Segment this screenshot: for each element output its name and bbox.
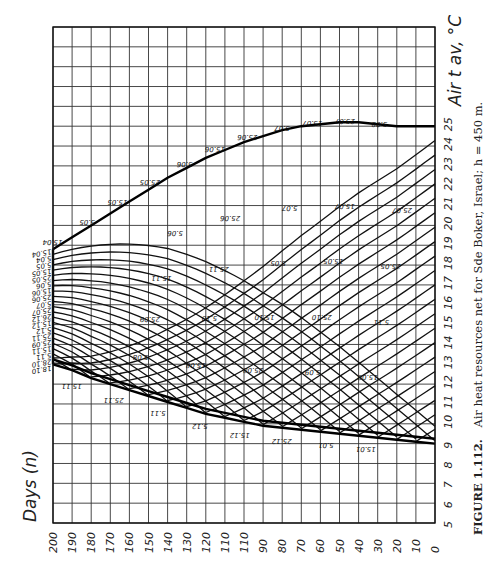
x-tick-label: 120 <box>200 532 213 553</box>
y-tick-label: 15 <box>442 316 455 330</box>
y-tick-label: 6 <box>442 501 455 508</box>
y-tick-label: 10 <box>442 415 455 429</box>
curve-label-interior: 15.11 <box>151 274 171 282</box>
y-tick-label: 19 <box>442 236 455 250</box>
curve-label-lower: 25.11 <box>104 396 124 404</box>
x-tick-label: 0 <box>429 546 442 553</box>
curve-label-upper: 15.05 <box>107 198 128 206</box>
y-tick-label: 11 <box>442 395 455 409</box>
y-tick-label: 14 <box>442 335 455 349</box>
x-tick-label: 10 <box>410 539 423 553</box>
curve-label-interior: 25.08 <box>243 366 264 374</box>
curve-label-interior: 25.07 <box>391 206 412 214</box>
caption-text: Air heat resources net for Sde Boker, Is… <box>471 102 485 429</box>
y-tick-label: 8 <box>442 461 455 468</box>
curve-label-upper: 25.06 <box>237 133 258 141</box>
x-tick-label: 130 <box>181 532 194 553</box>
curve-label-upper: 5.06 <box>176 160 192 168</box>
curve-label-lower: 15.01 <box>356 445 376 453</box>
y-tick-label: 25 <box>442 117 455 131</box>
x-tick-label: 200 <box>47 532 60 553</box>
y-tick-label: 21 <box>442 197 455 211</box>
y-tick-label: 13 <box>442 355 455 369</box>
x-tick-label: 170 <box>104 532 117 553</box>
x-tick-label: 30 <box>372 539 385 553</box>
curve-label-interior: 5.05 <box>270 259 286 267</box>
y-tick-label: 20 <box>442 216 455 230</box>
curve-label-interior: 5.08 <box>132 353 148 361</box>
y-tick-label: 7 <box>442 481 455 488</box>
y-tick-label: 16 <box>442 296 455 310</box>
curve-label-interior: 15.09 <box>357 373 378 381</box>
y-tick-label: 12 <box>442 375 455 389</box>
x-tick-labels: 2001901801701601501401301201101109080706… <box>47 532 442 553</box>
curve-label-interior: 15.07 <box>334 202 355 210</box>
curve-label-lower: 5.01 <box>318 441 334 449</box>
curve-label-upper: 15.07 <box>302 119 323 127</box>
x-tick-label: 140 <box>162 532 175 553</box>
x-tick-label: 90 <box>257 539 270 553</box>
y-tick-label: 9 <box>442 442 455 449</box>
x-tick-label: 80 <box>276 539 289 553</box>
curve-label-upper: 15.06 <box>204 145 225 153</box>
curve-label-interior: 5.07 <box>281 204 297 212</box>
curve-label-lower: 5.12 <box>192 422 208 430</box>
curve-label-interior: 25.05 <box>380 262 401 270</box>
x-tick-label: 150 <box>143 532 156 553</box>
curve-label-upper: 25.07 <box>334 117 355 125</box>
x-tick-label: 190 <box>66 532 79 553</box>
x-tick-label: 180 <box>85 532 98 553</box>
y-tick-label: 22 <box>442 177 455 191</box>
y-tick-label: 18 <box>442 256 455 270</box>
x-tick-label: 20 <box>391 539 404 553</box>
x-tick-label: 60 <box>314 539 327 553</box>
curve-label-upper: 5.05 <box>79 218 95 226</box>
curve-label-upper: 5.07 <box>274 124 290 132</box>
x-tick-label: 40 <box>353 539 366 553</box>
x-axis-title: Days (n) <box>20 450 40 522</box>
curve-label-upper: 25.05 <box>139 178 160 186</box>
x-tick-label: 110 <box>219 532 232 553</box>
curve-label-interior: 25.11 <box>209 265 229 273</box>
x-tick-label: 50 <box>334 539 347 553</box>
curve-label-interior: 25.06 <box>220 214 241 222</box>
curve-label-lower: 15.12 <box>229 431 250 439</box>
x-tick-label: 110 <box>238 532 251 553</box>
curve-label-interior: 5.09 <box>304 368 320 376</box>
y-tick-labels: 5678910111213141516171819202122232425 <box>442 117 455 528</box>
y-tick-label: 24 <box>442 137 455 151</box>
curve-label-lower: 25.12 <box>271 437 292 445</box>
figure-caption: FIGURE 1.112. Air heat resources net for… <box>471 102 485 535</box>
curve-label-interior: 5.11 <box>374 318 390 326</box>
chart: 15.045.0515.0525.055.0615.0625.065.0715.… <box>0 0 495 568</box>
heat-curve-ascending <box>416 429 435 441</box>
curve-label-interior: 15.10 <box>254 313 275 321</box>
curve-label-interior: 25.10 <box>311 313 332 321</box>
caption-label: FIGURE 1.112. <box>471 439 485 535</box>
x-tick-label: 70 <box>295 539 308 553</box>
curve-label-upper: 5.08 <box>371 120 387 128</box>
y-tick-label: 23 <box>442 157 455 171</box>
curve-label-interior: 5.10 <box>201 314 217 322</box>
y-tick-label: 5 <box>442 521 455 528</box>
y-tick-label: 17 <box>442 276 455 290</box>
curve-label-interior: 15.08 <box>185 361 206 369</box>
x-tick-label: 160 <box>123 532 136 553</box>
curve-label-interior: 25.09 <box>139 315 160 323</box>
curve-label-lower: 15.11 <box>62 382 82 390</box>
curve-label-lower: 5.11 <box>150 409 166 417</box>
curve-label-interior: 15.05 <box>323 257 344 265</box>
curve-label-interior: 5.06 <box>167 229 183 237</box>
y-axis-title: Air t av, °C <box>445 15 465 107</box>
